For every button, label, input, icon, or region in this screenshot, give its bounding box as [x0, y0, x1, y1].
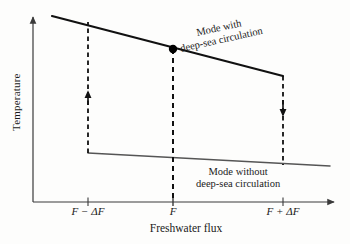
y-axis-label: Temperature — [10, 60, 22, 144]
annotation-mode-without-deep-sea-circulation: Mode without deep-sea circulation — [196, 166, 280, 190]
x-tick-label-f-plus-delta-f: F + ΔF — [248, 205, 318, 217]
annotation-lower-line1: Mode without — [209, 166, 268, 177]
x-tick-label-f: F — [138, 205, 208, 217]
operating-point-marker — [169, 45, 177, 53]
x-tick-label-f-minus-delta-f: F − ΔF — [53, 205, 123, 217]
lower-branch-line — [88, 153, 330, 166]
x-axis-label: Freshwater flux — [131, 222, 241, 235]
annotation-lower-line2: deep-sea circulation — [196, 178, 280, 190]
hysteresis-diagram: Temperature Freshwater flux F − ΔF F F +… — [0, 0, 350, 244]
